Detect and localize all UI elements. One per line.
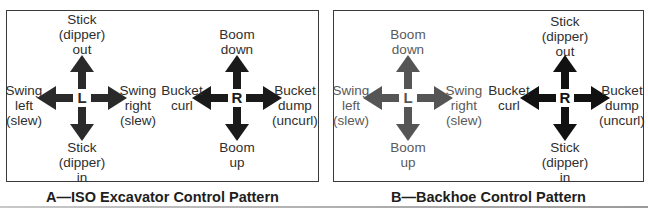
label-line: (slew) (116, 113, 160, 128)
label-line: (uncurl) (272, 113, 318, 128)
label-line: Boom (378, 140, 438, 155)
label-line: Boom (207, 27, 267, 42)
label-line: Stick (52, 140, 112, 155)
label-line: (dipper) (535, 155, 595, 170)
a-left-left-label: Swing left (slew) (2, 83, 46, 128)
label-line: up (378, 155, 438, 170)
label-line: Bucket (598, 83, 646, 98)
label-line: in (52, 170, 112, 185)
label-line: (uncurl) (598, 113, 646, 128)
label-line: Swing (442, 83, 486, 98)
label-line: curl (160, 98, 204, 113)
b-left-left-label: Swing left (slew) (329, 83, 373, 128)
label-line: up (207, 155, 267, 170)
label-line: Swing (2, 83, 46, 98)
b-right-right-label: Bucket dump (uncurl) (598, 83, 646, 128)
label-line: Swing (329, 83, 373, 98)
label-line: left (329, 98, 373, 113)
a-right-left-label: Bucket curl (160, 83, 204, 113)
b-right-down-label: Stick (dipper) in (535, 140, 595, 185)
bottom-divider (0, 206, 648, 208)
b-right-left-label: Bucket curl (487, 83, 531, 113)
label-line: Stick (52, 12, 112, 27)
caption-a: A—ISO Excavator Control Pattern (6, 189, 319, 205)
label-line: Bucket (272, 83, 318, 98)
label-line: Boom (378, 27, 438, 42)
a-left-right-label: Swing right (slew) (116, 83, 160, 128)
b-left-down-label: Boom up (378, 140, 438, 170)
a-left-down-label: Stick (dipper) in (52, 140, 112, 185)
label-line: Stick (535, 14, 595, 29)
a-right-down-label: Boom up (207, 140, 267, 170)
a-right-right-label: Bucket dump (uncurl) (272, 83, 318, 128)
label-line: Bucket (487, 83, 531, 98)
label-line: Swing (116, 83, 160, 98)
label-line: (slew) (442, 113, 486, 128)
caption-b: B—Backhoe Control Pattern (333, 189, 644, 205)
label-line: (dipper) (52, 27, 112, 42)
label-line: Stick (535, 140, 595, 155)
label-line: left (2, 98, 46, 113)
label-line: (dipper) (52, 155, 112, 170)
label-line: Bucket (160, 83, 204, 98)
label-line: right (442, 98, 486, 113)
label-line: in (535, 170, 595, 185)
label-line: dump (272, 98, 318, 113)
label-line: Boom (207, 140, 267, 155)
label-line: (slew) (2, 113, 46, 128)
label-line: right (116, 98, 160, 113)
label-line: (dipper) (535, 29, 595, 44)
label-line: dump (598, 98, 646, 113)
label-line: curl (487, 98, 531, 113)
b-left-right-label: Swing right (slew) (442, 83, 486, 128)
label-line: (slew) (329, 113, 373, 128)
